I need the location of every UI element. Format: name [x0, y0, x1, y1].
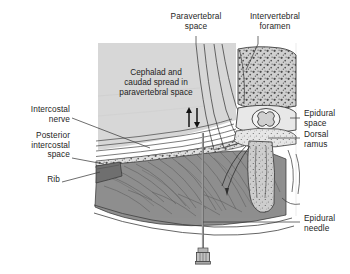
- leader-rib: [62, 172, 100, 182]
- label-intervertebral-foramen: Intervertebral foramen: [228, 12, 322, 31]
- epidural-needle-shaft: [202, 133, 203, 248]
- label-epidural-needle: Epidural needle: [304, 214, 350, 233]
- label-epidural-space: Epidural space: [304, 109, 350, 128]
- epidural-needle-hub: [196, 248, 211, 264]
- dorsal-ramus-track: [248, 141, 275, 212]
- vertebral-body-bone: [238, 47, 296, 109]
- label-intercostal-nerve: Intercostal nerve: [2, 105, 70, 124]
- label-posterior-intercostal-space: Posterior intercostal space: [2, 131, 70, 160]
- label-rib: Rib: [2, 175, 60, 185]
- label-dorsal-ramus: Dorsal ramus: [304, 130, 350, 149]
- label-paravertebral-space: Paravertebral space: [152, 12, 240, 31]
- spread-annotation-text: Cephalad and caudad spread in paraverteb…: [104, 67, 208, 98]
- spinal-cord-butterfly: [252, 109, 280, 130]
